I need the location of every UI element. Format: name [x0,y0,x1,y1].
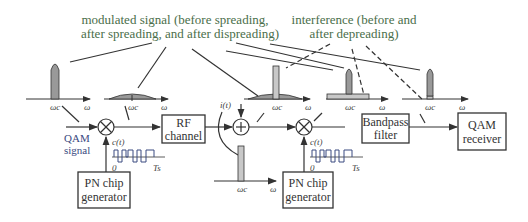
svg-text:RF: RF [176,116,191,130]
pn-chip-generator-tx: PN chip generator [78,172,130,208]
svg-text:0: 0 [112,163,117,173]
svg-text:ω: ω [305,102,311,112]
interference-pointer-lines [286,44,424,101]
svg-text:ω: ω [161,102,167,112]
modulated-pointer-lines [70,43,420,96]
spectrum-with-interference: ωc ω [244,66,311,112]
spectrum-qam-signal: ωc ω [26,64,90,112]
svg-text:Bandpass: Bandpass [363,115,409,129]
interference-spectrum: ωc ω i(t) [220,100,276,194]
svg-text:ω: ω [379,102,385,112]
svg-text:ωc: ωc [345,102,355,112]
svg-text:ω: ω [459,102,465,112]
bandpass-filter-block: Bandpass filter [362,114,409,143]
svg-text:ωc: ωc [272,102,282,112]
multiplier-despreading [296,119,312,135]
svg-text:ωc: ωc [50,102,60,112]
spread-spectrum-diagram: modulated signal (before spreading, afte… [0,0,528,222]
interference-label: i(t) [220,100,231,110]
rf-channel-block: RF channel [162,115,205,143]
svg-text:ω: ω [84,102,90,112]
svg-text:ωc: ωc [128,102,138,112]
svg-text:Ts: Ts [153,163,161,173]
multiplier-spreading [98,119,114,135]
chip-waveform-tx: c(t) 0 Ts [112,137,165,173]
qam-signal-label-line1: QAM [64,132,90,144]
svg-text:filter: filter [374,128,397,142]
svg-text:c(t): c(t) [310,137,323,147]
interference-annotation-line1: interference (before and [292,12,417,27]
pn-chip-generator-rx: PN chip generator [283,172,333,208]
svg-text:receiver: receiver [463,132,502,146]
svg-text:0: 0 [310,163,315,173]
modulated-signal-annotation-line2: after spreading, and after dispreading) [81,26,279,41]
svg-text:PN chip: PN chip [289,176,328,190]
spectrum-after-spreading: ωc ω [104,94,168,112]
adder-interference [233,119,249,135]
svg-text:generator: generator [285,190,330,204]
spectrum-after-bandpass: ωc ω [402,69,468,112]
svg-text:ωc: ωc [425,102,435,112]
svg-text:ωc: ωc [237,184,247,194]
svg-text:ω: ω [270,184,276,194]
svg-text:PN chip: PN chip [85,176,124,190]
svg-text:generator: generator [81,190,126,204]
qam-receiver-block: QAM receiver [458,113,506,150]
qam-signal-label-line2: signal [64,144,90,156]
chip-waveform-rx: c(t) 0 Ts [310,137,363,173]
spectrum-after-despreading: ωc ω [326,69,388,112]
svg-text:channel: channel [165,129,203,143]
svg-text:c(t): c(t) [112,137,125,147]
svg-text:Ts: Ts [352,163,360,173]
svg-text:QAM: QAM [468,118,496,132]
modulated-signal-annotation-line1: modulated signal (before spreading, [82,12,269,27]
interference-annotation-line2: after depreading) [309,26,398,41]
